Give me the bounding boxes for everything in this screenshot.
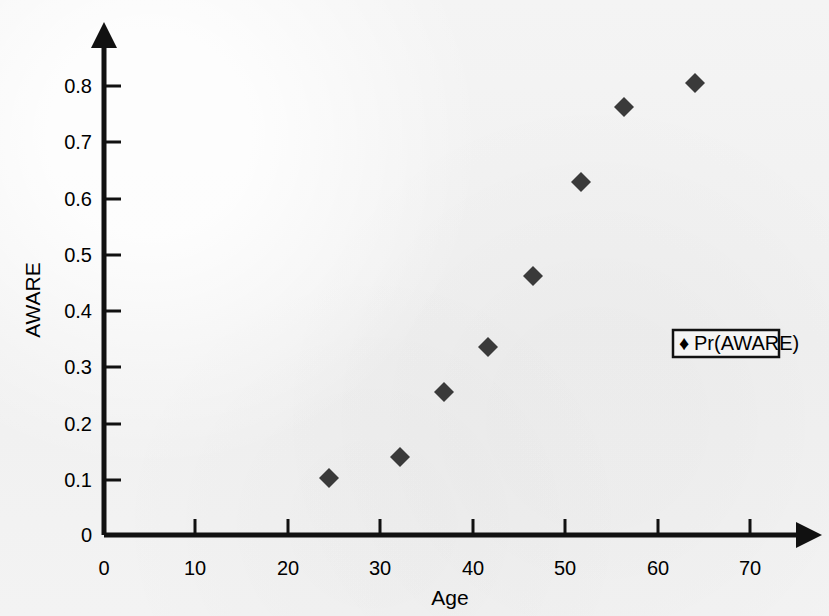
data-point[interactable] [434, 382, 454, 402]
x-tick-label: 50 [554, 557, 576, 579]
y-tick-label: 0.1 [64, 469, 92, 491]
y-tick-label: 0.3 [64, 356, 92, 378]
y-axis-arrow-icon [91, 22, 117, 48]
x-tick-label: 10 [184, 557, 206, 579]
x-axis-title: Age [431, 586, 468, 609]
legend-marker-icon: ♦ [679, 332, 689, 354]
legend-entry-label: Pr(AWARE) [694, 332, 799, 354]
scatter-plot: 0 10 20 30 40 50 60 70 0 0.1 0.2 0.3 0.4… [0, 0, 829, 616]
figure-canvas: 0 10 20 30 40 50 60 70 0 0.1 0.2 0.3 0.4… [0, 0, 829, 616]
x-axis-arrow-icon [796, 522, 822, 548]
y-tick-label: 0.5 [64, 244, 92, 266]
y-tick-label: 0.4 [64, 300, 92, 322]
x-tick-label: 40 [462, 557, 484, 579]
x-tick-label: 20 [277, 557, 299, 579]
y-tick-label: 0 [81, 524, 92, 546]
y-axis-ticks [104, 86, 121, 480]
data-point[interactable] [478, 337, 498, 357]
y-tick-label: 0.6 [64, 188, 92, 210]
chart-svg: 0 10 20 30 40 50 60 70 0 0.1 0.2 0.3 0.4… [0, 0, 829, 616]
y-tick-label: 0.7 [64, 131, 92, 153]
x-axis-tick-labels: 0 10 20 30 40 50 60 70 [98, 557, 761, 579]
y-axis-tick-labels: 0 0.1 0.2 0.3 0.4 0.5 0.6 0.7 0.8 [64, 75, 92, 546]
data-point[interactable] [319, 468, 339, 488]
data-point[interactable] [571, 172, 591, 192]
y-tick-label: 0.8 [64, 75, 92, 97]
x-tick-label: 70 [739, 557, 761, 579]
data-point[interactable] [523, 266, 543, 286]
y-tick-label: 0.2 [64, 413, 92, 435]
data-point[interactable] [685, 73, 705, 93]
data-point-group [319, 73, 705, 488]
x-tick-label: 30 [369, 557, 391, 579]
data-point[interactable] [614, 97, 634, 117]
data-point[interactable] [390, 447, 410, 467]
x-tick-label: 0 [98, 557, 109, 579]
legend[interactable]: ♦ Pr(AWARE) [673, 330, 799, 357]
x-tick-label: 60 [647, 557, 669, 579]
y-axis-title: AWARE [21, 262, 44, 337]
